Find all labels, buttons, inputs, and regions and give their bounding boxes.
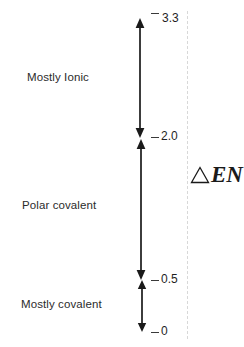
triangle-delta-icon <box>190 166 210 184</box>
region-label-mostly-covalent: Mostly covalent <box>21 299 102 311</box>
electronegativity-scale-figure: 3.3 2.0 0.5 0 Mostly Ionic Polar covalen… <box>0 0 244 347</box>
tick-label-3-3: 3.3 <box>162 12 179 24</box>
region-label-mostly-ionic: Mostly Ionic <box>27 72 89 84</box>
axis-dotted-guide-line <box>187 11 188 339</box>
tick-mark-3-3 <box>151 13 159 14</box>
range-arrow-polar-covalent <box>134 139 148 280</box>
tick-label-0-5: 0.5 <box>161 273 178 285</box>
delta-en-axis-label: EN <box>190 163 243 186</box>
range-arrow-mostly-covalent <box>135 280 149 332</box>
range-arrow-mostly-ionic <box>133 18 147 138</box>
tick-mark-0 <box>151 332 159 333</box>
tick-label-2-0: 2.0 <box>161 130 178 142</box>
region-label-polar-covalent: Polar covalent <box>22 200 96 212</box>
tick-mark-0-5 <box>151 280 159 281</box>
delta-en-text: EN <box>211 163 243 186</box>
tick-label-0: 0 <box>161 325 168 337</box>
tick-mark-2-0 <box>151 137 159 138</box>
